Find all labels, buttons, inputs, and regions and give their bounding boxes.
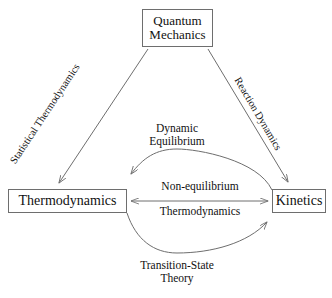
- edge-label-dynamic-equilibrium-line-2: Equilibrium: [107, 135, 247, 148]
- edge-label-non-equilibrium-line-2: Thermodynamics: [125, 205, 275, 218]
- node-quantum-mechanics-line-1: Quantum: [153, 14, 201, 28]
- edge-label-dynamic-equilibrium: Dynamic Equilibrium: [107, 122, 247, 147]
- node-kinetics[interactable]: Kinetics: [272, 189, 326, 213]
- edge-label-transition-state-theory-line-1: Transition-State: [102, 259, 252, 272]
- diagram-canvas: Quantum Mechanics Thermodynamics Kinetic…: [0, 0, 332, 298]
- node-thermodynamics[interactable]: Thermodynamics: [8, 189, 127, 213]
- edge-label-dynamic-equilibrium-line-1: Dynamic: [107, 122, 247, 135]
- node-quantum-mechanics-line-2: Mechanics: [149, 28, 205, 42]
- edge-transition-state-theory: [127, 213, 267, 253]
- edge-label-non-equilibrium-line-1: Non-equilibrium: [125, 180, 275, 193]
- edge-label-transition-state-theory-line-2: Theory: [102, 272, 252, 285]
- node-thermodynamics-line-1: Thermodynamics: [19, 194, 117, 209]
- node-quantum-mechanics[interactable]: Quantum Mechanics: [142, 9, 213, 47]
- edge-label-transition-state-theory: Transition-State Theory: [102, 259, 252, 284]
- edge-reaction-dynamics: [208, 49, 288, 182]
- edge-label-non-equilibrium-thermodynamics: Thermodynamics: [125, 205, 275, 218]
- edge-label-non-equilibrium: Non-equilibrium: [125, 180, 275, 193]
- node-kinetics-line-1: Kinetics: [276, 194, 323, 209]
